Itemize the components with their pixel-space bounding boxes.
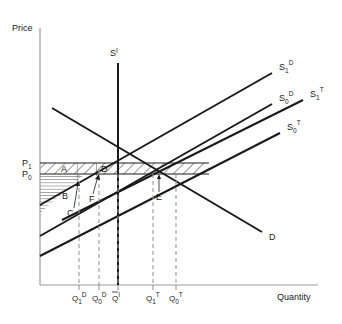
qty-label-Q0D: Q0D — [92, 291, 107, 305]
quantity-tick-labels: Q1D Q0D QI Q1T Q0T — [72, 291, 183, 305]
price-label-P1: P1 — [22, 158, 32, 170]
region-label-F: F — [89, 194, 95, 204]
y-axis-label: Price — [12, 23, 33, 33]
supply-demand-diagram: Price Quantity P1 P0 Q1D Q0D QI — [0, 0, 342, 324]
x-axis-ticks — [79, 285, 176, 290]
curve-label-S1D: S1D — [279, 59, 294, 74]
curve-S1T — [62, 100, 303, 220]
region-label-E: E — [156, 192, 162, 202]
qty-label-QbarI-group: QI — [112, 291, 120, 304]
curve-label-D: D — [269, 232, 276, 242]
curve-labels: SI S1D S0D S1T S0T D — [110, 47, 324, 243]
price-label-P0: P0 — [22, 169, 32, 181]
curve-label-S1T: S1T — [310, 86, 324, 101]
curve-label-SI: SI — [110, 47, 118, 59]
x-axis-label: Quantity — [277, 292, 311, 302]
qty-label-Q1D: Q1D — [72, 291, 87, 305]
curve-S1D — [40, 73, 272, 205]
curve-label-S0D: S0D — [279, 90, 294, 105]
region-label-B: B — [62, 191, 68, 201]
region-label-C: C — [67, 208, 74, 218]
region-label-D: D — [101, 164, 108, 174]
leader-C — [74, 183, 78, 208]
price-axis-labels: P1 P0 — [22, 158, 32, 181]
qty-label-Q1T: Q1T — [146, 291, 160, 305]
leader-E-arrowhead — [157, 174, 161, 179]
diagram-canvas: Price Quantity P1 P0 Q1D Q0D QI — [0, 0, 342, 324]
qty-label-Q0T: Q0T — [169, 291, 183, 305]
region-label-A: A — [61, 164, 67, 174]
curve-label-S0T: S0T — [287, 119, 301, 134]
